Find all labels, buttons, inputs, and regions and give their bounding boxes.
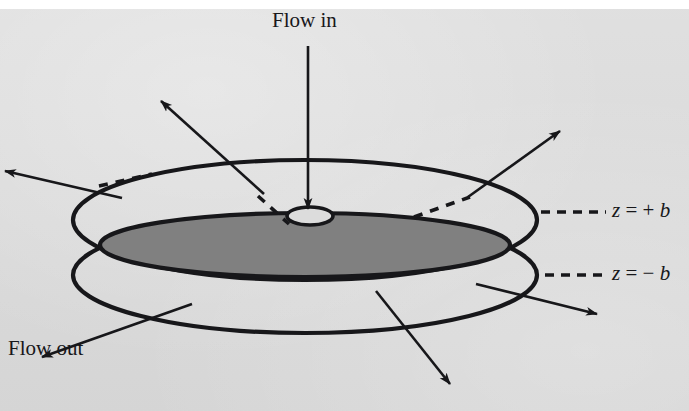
outflow-arrow-lower-center — [376, 291, 450, 384]
z-symbol-upper: z — [612, 198, 620, 222]
z-plus-b-label: z = + b — [612, 200, 670, 221]
dashed-streamline-upper-right — [414, 197, 470, 217]
plus-b-value: + b — [643, 198, 671, 222]
diagram-artwork — [0, 0, 689, 411]
inlet-hole-ellipse — [287, 207, 333, 225]
z-minus-b-label: z = − b — [612, 263, 670, 284]
outflow-arrow-upper-right — [468, 131, 560, 197]
flow-in-label: Flow in — [272, 10, 337, 31]
equals-upper: = — [620, 198, 642, 222]
z-symbol-lower: z — [612, 261, 620, 285]
equals-lower: = — [620, 261, 642, 285]
flow-out-label: Flow out — [8, 338, 83, 359]
minus-b-value: − b — [643, 261, 671, 285]
figure-container: Flow in Flow out z = + b z = − b — [0, 0, 689, 411]
outflow-arrow-upper-left — [161, 101, 264, 194]
